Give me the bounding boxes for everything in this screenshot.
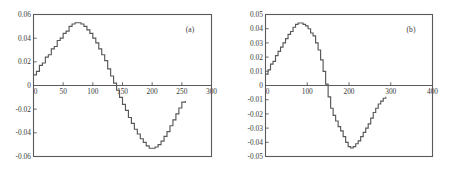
y-tick-label: -0.04 bbox=[248, 138, 264, 147]
chart-b-svg: 0.050.040.030.020.010-0.01-0.02-0.03-0.0… bbox=[225, 0, 450, 175]
y-tick-label: -0.02 bbox=[16, 105, 32, 114]
chart-panel-a: 0.060.040.020-0.02-0.04-0.06050100150200… bbox=[0, 0, 225, 175]
y-tick-label: 0.03 bbox=[250, 39, 263, 48]
y-tick-label: 0 bbox=[27, 81, 31, 90]
y-tick-label: 0.04 bbox=[18, 34, 31, 43]
x-tick-label: 50 bbox=[59, 87, 67, 96]
y-tick-label: 0.02 bbox=[250, 53, 263, 62]
y-tick-label: -0.03 bbox=[248, 124, 264, 133]
chart-panel-b: 0.050.040.030.020.010-0.01-0.02-0.03-0.0… bbox=[225, 0, 450, 175]
x-tick-label: 200 bbox=[147, 87, 158, 96]
y-tick-label: -0.02 bbox=[248, 110, 264, 119]
chart-a-panel-label: (a) bbox=[186, 25, 195, 34]
y-tick-label: -0.05 bbox=[248, 152, 264, 161]
y-tick-label: 0.06 bbox=[18, 10, 31, 19]
x-tick-label: 300 bbox=[385, 87, 396, 96]
x-tick-label: 200 bbox=[343, 87, 354, 96]
y-tick-label: -0.01 bbox=[248, 95, 264, 104]
x-tick-label: 250 bbox=[176, 87, 187, 96]
y-tick-label: 0.05 bbox=[250, 10, 263, 19]
y-tick-label: 0.04 bbox=[250, 24, 263, 33]
y-tick-label: -0.06 bbox=[16, 152, 32, 161]
x-tick-label: 150 bbox=[117, 87, 128, 96]
x-tick-label: 0 bbox=[266, 87, 270, 96]
chart-b-panel-label: (b) bbox=[407, 25, 416, 34]
chart-a-svg: 0.060.040.020-0.02-0.04-0.06050100150200… bbox=[0, 0, 225, 175]
x-tick-label: 100 bbox=[87, 87, 98, 96]
y-tick-label: -0.04 bbox=[16, 128, 32, 137]
y-tick-label: 0 bbox=[259, 81, 263, 90]
x-tick-label: 100 bbox=[302, 87, 313, 96]
y-tick-label: 0.01 bbox=[250, 67, 263, 76]
x-tick-label: 0 bbox=[34, 87, 38, 96]
figure-container: 0.060.040.020-0.02-0.04-0.06050100150200… bbox=[0, 0, 450, 175]
y-tick-label: 0.02 bbox=[18, 57, 31, 66]
